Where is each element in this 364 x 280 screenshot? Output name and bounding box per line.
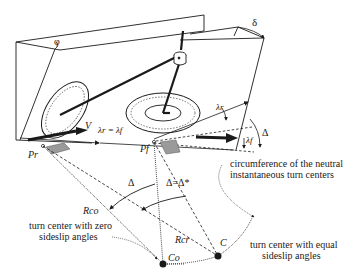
vehicle-kinematics-diagram: φ δ V λr = λf λr λf Δ Pr Pf Δ Δ=Δ* Rco R…	[0, 0, 364, 280]
equal-slip-label-line2: sideslip angles	[262, 250, 321, 261]
front-contact-patch	[160, 140, 180, 154]
delta-arc-equal	[142, 196, 186, 210]
roll-angle-label: φ	[54, 36, 60, 47]
equal-slip-turn-center	[215, 253, 222, 260]
zero-slip-label-line2: sideslip angles	[39, 231, 98, 242]
delta-equal-label: Δ=Δ*	[166, 177, 190, 188]
zero-center-label: Co	[168, 252, 180, 263]
rear-contact-label: Pr	[27, 149, 38, 160]
equal-slip-label: λr = λf	[97, 125, 124, 135]
front-velocity-arrowhead	[226, 133, 238, 143]
equal-center-label: C	[220, 237, 227, 248]
front-contact-label: Pf	[139, 143, 150, 154]
circumference-label-line1: circumference of the neutral	[230, 158, 343, 169]
zero-slip-label-line1: turn center with zero	[29, 220, 112, 231]
zero-leader	[112, 237, 157, 259]
zero-slip-turn-center	[160, 261, 167, 268]
steer-angle-label: δ	[252, 16, 257, 28]
diagram-canvas: φ δ V λr = λf λr λf Δ Pr Pf Δ Δ=Δ* Rco R…	[0, 0, 364, 280]
velocity-label: V	[85, 120, 93, 131]
equal-slip-label-line1: turn center with equal	[250, 239, 338, 250]
circumference-label-line2: instantaneous turn centers	[230, 169, 334, 180]
rear-contact-patch	[46, 143, 70, 154]
front-slip-label: λf	[245, 135, 254, 145]
radius-zero-label: Rco	[82, 205, 99, 216]
radius-equal-label: Rcr	[174, 234, 190, 245]
vehicle-chassis-bars	[60, 31, 183, 115]
rear-slip-label: λr	[215, 102, 224, 112]
steering-head-icon	[174, 52, 186, 65]
delta-label-zero: Δ	[128, 177, 135, 188]
delta-label-top: Δ	[262, 127, 269, 138]
velocity-arrows	[28, 131, 228, 140]
